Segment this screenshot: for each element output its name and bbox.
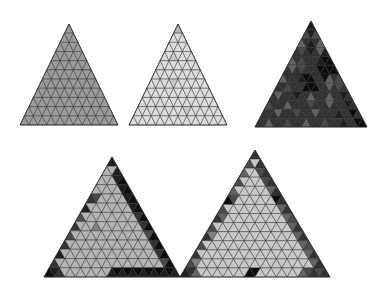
mesh-figure: [0, 0, 387, 289]
figure-background: [0, 0, 387, 289]
figure-canvas: [0, 0, 387, 289]
